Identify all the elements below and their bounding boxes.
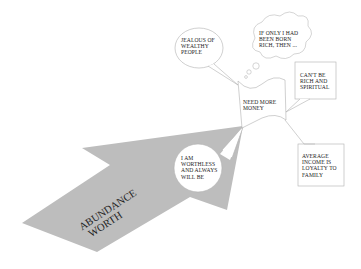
if-only-line-3: RICH, THEN ... (259, 42, 298, 48)
if-only-label: IF ONLY I HAD BEEN BORN RICH, THEN ... (259, 30, 298, 49)
diagram-canvas: JEALOUS OF WEALTHY PEOPLE IF ONLY I HAD … (0, 0, 361, 269)
average-label: AVERAGE INCOME IS LOYALTY TO FAMILY (302, 153, 337, 178)
need-more-line-2: MONEY (243, 105, 276, 111)
average-line-4: FAMILY (302, 172, 337, 178)
worthless-line-3: AND ALWAYS (181, 167, 218, 173)
jealous-label: JEALOUS OF WEALTHY PEOPLE (181, 37, 215, 56)
worthless-line-4: WILL BE (181, 174, 218, 180)
average-line-3: LOYALTY TO (302, 165, 337, 171)
worthless-label: I AM WORTHLESS AND ALWAYS WILL BE (181, 155, 218, 180)
cant-be-label: CAN'T BE RICH AND SPIRITUAL (300, 72, 330, 91)
jealous-line-3: PEOPLE (181, 49, 215, 55)
cant-be-line-3: SPIRITUAL (300, 84, 330, 90)
need-more-money-label: NEED MORE MONEY (243, 99, 276, 111)
